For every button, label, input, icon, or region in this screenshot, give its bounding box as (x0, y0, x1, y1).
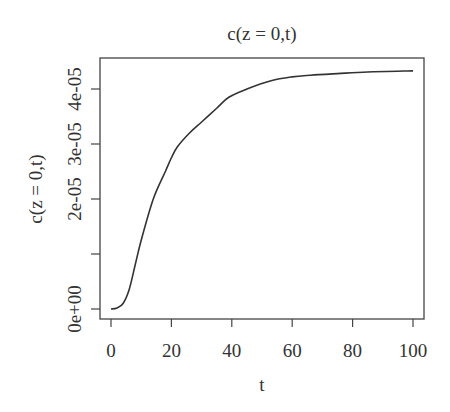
y-axis-label: c(z = 0,t) (25, 154, 47, 223)
y-tick-label: 2e-05 (64, 177, 85, 220)
y-tick-label: 0e+00 (64, 285, 85, 333)
x-axis: 020406080100 (106, 319, 427, 361)
line-chart: c(z = 0,t) 020406080100 0e+002e-053e-054… (0, 0, 450, 412)
x-tick-label: 20 (162, 340, 181, 361)
x-tick-label: 60 (283, 340, 302, 361)
x-tick-label: 0 (106, 340, 116, 361)
x-axis-label: t (259, 374, 265, 395)
y-tick-label: 4e-05 (64, 67, 85, 110)
x-tick-label: 80 (343, 340, 362, 361)
y-tick-label: 3e-05 (64, 122, 85, 165)
data-line (111, 71, 413, 309)
x-tick-label: 40 (222, 340, 241, 361)
x-tick-label: 100 (399, 340, 428, 361)
chart-title: c(z = 0,t) (227, 23, 296, 45)
plot-frame (100, 58, 424, 319)
y-axis: 0e+002e-053e-054e-05 (64, 67, 100, 332)
